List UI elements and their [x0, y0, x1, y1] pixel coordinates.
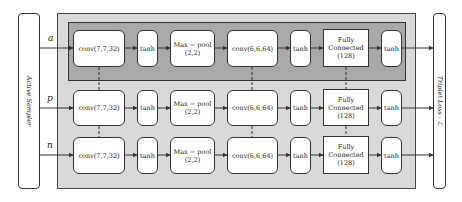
conv1-a: conv(7,7,32) [73, 30, 125, 67]
tanh3-p: tanh [381, 90, 402, 126]
node-label: Max − pool (2,2) [174, 41, 212, 57]
node-label: tanh [293, 152, 308, 160]
tanh3-n: tanh [381, 137, 402, 174]
node-label: tanh [293, 45, 308, 53]
fc-p: Fully Connected (128) [323, 89, 369, 126]
node-label: tanh [384, 45, 399, 53]
node-label: conv(7,7,32) [78, 104, 119, 112]
input-label-n: n [47, 140, 53, 150]
node-label: conv(6,6,64) [232, 152, 273, 160]
node-label: tanh [140, 152, 155, 160]
node-label: tanh [140, 45, 155, 53]
conv2-p: conv(6,6,64) [227, 90, 278, 126]
conv1-p: conv(7,7,32) [73, 90, 125, 126]
node-label: Max − pool (2,2) [174, 100, 212, 116]
tanh1-a: tanh [137, 30, 158, 67]
input-label-p: p [47, 93, 53, 103]
tanh2-p: tanh [290, 90, 311, 126]
maxpool-n: Max − pool (2,2) [170, 137, 215, 174]
node-label: conv(6,6,64) [232, 45, 273, 53]
maxpool-p: Max − pool (2,2) [170, 90, 215, 126]
tanh1-n: tanh [137, 137, 158, 174]
node-label: tanh [293, 104, 308, 112]
node-label: tanh [384, 152, 399, 160]
tanh2-a: tanh [290, 30, 311, 67]
conv2-n: conv(6,6,64) [227, 137, 278, 174]
node-label: conv(6,6,64) [232, 104, 273, 112]
node-label: Fully Connected (128) [328, 96, 363, 120]
conv2-a: conv(6,6,64) [227, 30, 278, 67]
maxpool-a: Max − pool (2,2) [170, 30, 215, 67]
node-label: tanh [140, 104, 155, 112]
node-label: Fully Connected (128) [328, 36, 363, 60]
tanh2-n: tanh [290, 137, 311, 174]
node-label: Max − pool (2,2) [174, 148, 212, 164]
input-label-a: a [48, 33, 53, 43]
conv1-n: conv(7,7,32) [73, 137, 125, 174]
node-label: conv(7,7,32) [78, 45, 119, 53]
node-label: conv(7,7,32) [78, 152, 119, 160]
tanh1-p: tanh [137, 90, 158, 126]
node-label: tanh [384, 104, 399, 112]
node-label: Fully Connected (128) [328, 143, 363, 167]
tanh3-a: tanh [381, 30, 402, 67]
fc-a: Fully Connected (128) [323, 29, 369, 67]
fc-n: Fully Connected (128) [323, 136, 369, 174]
